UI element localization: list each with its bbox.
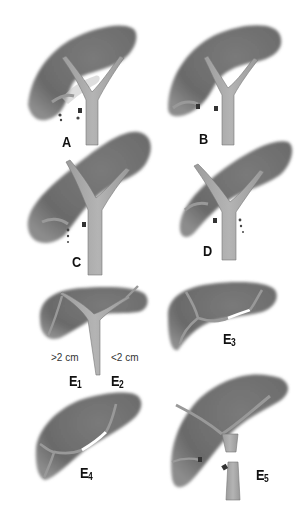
- panel-b: [168, 25, 281, 145]
- label-e1: E1: [69, 372, 81, 390]
- bile-leak-drop: [60, 119, 62, 121]
- panel-a: [28, 25, 136, 145]
- measure-right: <2 cm: [111, 352, 139, 363]
- label-e5: E5: [256, 466, 268, 484]
- label-d: D: [203, 242, 212, 259]
- clip: [82, 222, 86, 227]
- clip: [78, 108, 82, 113]
- label-e2: E2: [111, 372, 123, 390]
- label-c: C: [72, 253, 81, 270]
- common-bile-duct-stump: [226, 462, 240, 500]
- bile-duct-injury-diagram: [0, 0, 307, 509]
- bile-leak-drop: [67, 241, 69, 243]
- label-e3: E3: [223, 330, 235, 348]
- bile-leak-drop: [67, 229, 70, 232]
- bile-leak-drop: [76, 116, 79, 119]
- label-a: A: [62, 133, 71, 150]
- bile-leak-drop: [58, 113, 61, 116]
- bile-leak-drop: [67, 235, 69, 237]
- clip: [214, 106, 218, 111]
- bile-leak-drop: [240, 225, 242, 227]
- clip: [221, 464, 228, 471]
- clip: [198, 457, 202, 462]
- confluence-stump: [222, 434, 238, 452]
- measure-left: >2 cm: [51, 352, 79, 363]
- bile-leak-drop: [242, 231, 244, 233]
- label-b: B: [199, 130, 208, 147]
- label-e4: E4: [80, 464, 92, 482]
- panel-c: [28, 132, 151, 275]
- panel-d: [180, 141, 292, 260]
- panel-e5: [171, 374, 288, 500]
- clip: [213, 218, 217, 223]
- liver-shape: [28, 25, 136, 120]
- bile-leak-drop: [239, 219, 242, 222]
- clip: [196, 104, 200, 109]
